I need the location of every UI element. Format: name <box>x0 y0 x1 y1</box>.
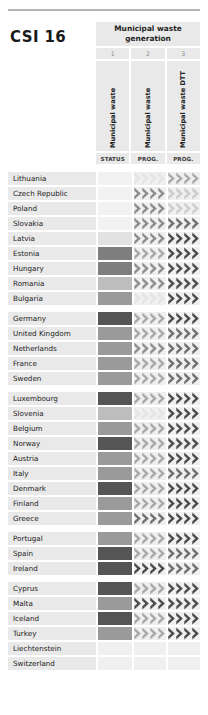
chevron-group <box>134 372 166 385</box>
chevron-right-icon <box>176 232 184 245</box>
chevron-group <box>134 597 166 610</box>
chevron-group <box>134 232 166 245</box>
chevron-right-icon <box>168 232 176 245</box>
table-row[interactable]: Netherlands <box>0 342 208 355</box>
table-row[interactable]: Romania <box>0 277 208 290</box>
progress-cell-prog-1 <box>134 452 166 465</box>
table-row[interactable]: Liechtenstein <box>0 642 208 655</box>
chevron-group <box>168 232 200 245</box>
chevron-right-icon <box>134 422 142 435</box>
table-row[interactable]: Lithuania <box>0 172 208 185</box>
progress-cell-prog-2 <box>168 327 200 340</box>
table-row[interactable]: Sweden <box>0 372 208 385</box>
country-name: Luxembourg <box>8 392 96 405</box>
progress-cell-prog-1 <box>134 597 166 610</box>
chevron-right-icon <box>192 612 200 625</box>
chevron-right-icon <box>158 547 166 560</box>
chevron-right-icon <box>158 247 166 260</box>
country-group: GermanyUnited KingdomNetherlandsFranceSw… <box>0 312 208 385</box>
chevron-group <box>134 217 166 230</box>
chevron-right-icon <box>184 187 192 200</box>
chevron-right-icon <box>192 202 200 215</box>
table-row[interactable]: Germany <box>0 312 208 325</box>
table-row[interactable]: Norway <box>0 437 208 450</box>
progress-cell-prog-1 <box>134 292 166 305</box>
chevron-right-icon <box>192 422 200 435</box>
table-row[interactable]: Greece <box>0 512 208 525</box>
column-number-1: 1 <box>96 48 129 59</box>
chevron-right-icon <box>134 372 142 385</box>
chevron-right-icon <box>192 262 200 275</box>
chevron-right-icon <box>176 247 184 260</box>
chevron-group <box>168 187 200 200</box>
chevron-right-icon <box>176 292 184 305</box>
table-row[interactable]: France <box>0 357 208 370</box>
chevron-right-icon <box>150 627 158 640</box>
chevron-group <box>134 422 166 435</box>
table-row[interactable]: Finland <box>0 497 208 510</box>
chevron-right-icon <box>158 407 166 420</box>
table-row[interactable]: United Kingdom <box>0 327 208 340</box>
chevron-right-icon <box>184 532 192 545</box>
chevron-right-icon <box>176 582 184 595</box>
chevron-group <box>168 422 200 435</box>
table-row[interactable]: Czech Republic <box>0 187 208 200</box>
chevron-right-icon <box>142 202 150 215</box>
chevron-group <box>134 342 166 355</box>
table-row[interactable]: Slovenia <box>0 407 208 420</box>
table-row[interactable]: Luxembourg <box>0 392 208 405</box>
chevron-right-icon <box>192 217 200 230</box>
table-row[interactable]: Malta <box>0 597 208 610</box>
chevron-right-icon <box>168 452 176 465</box>
chevron-right-icon <box>158 627 166 640</box>
column-subheader-prog-1: PROG. <box>131 153 164 164</box>
chevron-right-icon <box>192 452 200 465</box>
chevron-right-icon <box>134 292 142 305</box>
chevron-group <box>134 627 166 640</box>
table-row[interactable]: Poland <box>0 202 208 215</box>
chevron-group <box>134 262 166 275</box>
table-row[interactable]: Turkey <box>0 627 208 640</box>
status-badge <box>98 467 132 480</box>
table-row[interactable]: Ireland <box>0 562 208 575</box>
chevron-right-icon <box>134 467 142 480</box>
chevron-right-icon <box>168 327 176 340</box>
progress-cell-prog-2 <box>168 512 200 525</box>
chevron-right-icon <box>150 452 158 465</box>
table-row[interactable]: Estonia <box>0 247 208 260</box>
chevron-right-icon <box>192 172 200 185</box>
progress-cell-prog-2 <box>168 497 200 510</box>
chevron-right-icon <box>192 597 200 610</box>
chevron-right-icon <box>176 202 184 215</box>
table-row[interactable]: Iceland <box>0 612 208 625</box>
chevron-group <box>168 437 200 450</box>
chevron-right-icon <box>184 262 192 275</box>
table-row[interactable]: Latvia <box>0 232 208 245</box>
table-row[interactable]: Spain <box>0 547 208 560</box>
chevron-right-icon <box>142 292 150 305</box>
chevron-right-icon <box>184 247 192 260</box>
chevron-right-icon <box>134 277 142 290</box>
table-row[interactable]: Hungary <box>0 262 208 275</box>
chevron-right-icon <box>150 262 158 275</box>
chevron-right-icon <box>158 512 166 525</box>
table-row[interactable]: Italy <box>0 467 208 480</box>
country-name: Greece <box>8 512 96 525</box>
table-row[interactable]: Switzerland <box>0 657 208 670</box>
progress-cell-prog-2 <box>168 467 200 480</box>
chevron-group <box>134 292 166 305</box>
chevron-right-icon <box>142 392 150 405</box>
table-row[interactable]: Portugal <box>0 532 208 545</box>
table-row[interactable]: Slovakia <box>0 217 208 230</box>
chevron-right-icon <box>142 407 150 420</box>
country-name: Denmark <box>8 482 96 495</box>
chevron-right-icon <box>150 232 158 245</box>
table-row[interactable]: Cyprus <box>0 582 208 595</box>
country-name: Norway <box>8 437 96 450</box>
chevron-right-icon <box>134 597 142 610</box>
table-row[interactable]: Denmark <box>0 482 208 495</box>
table-row[interactable]: Austria <box>0 452 208 465</box>
table-row[interactable]: Belgium <box>0 422 208 435</box>
chevron-right-icon <box>184 372 192 385</box>
table-row[interactable]: Bulgaria <box>0 292 208 305</box>
